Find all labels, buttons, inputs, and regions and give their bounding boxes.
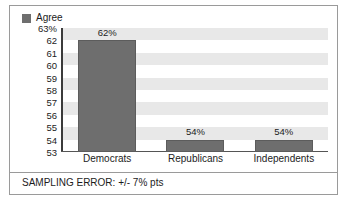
footnote-divider xyxy=(10,172,337,173)
sampling-error-note: SAMPLING ERROR: +/- 7% pts xyxy=(22,178,163,188)
y-axis-tick-label: 60 xyxy=(46,61,57,71)
bar-group: 54% xyxy=(151,28,239,152)
category-label: Democrats xyxy=(83,154,131,164)
bar-value-label: 54% xyxy=(186,127,205,137)
bar-group: 62% xyxy=(63,28,151,152)
y-axis-tick-label: 59 xyxy=(46,74,57,84)
y-axis-tick-label: 56 xyxy=(46,111,57,121)
bar xyxy=(166,140,224,152)
bar-value-label: 62% xyxy=(98,28,117,38)
y-axis-tick-label: 57 xyxy=(46,98,57,108)
bar xyxy=(255,140,313,152)
legend-item-label: Agree xyxy=(36,13,63,23)
legend-swatch-icon xyxy=(22,14,31,23)
y-axis-tick-labels: 63%62616059585756555453 xyxy=(31,28,59,152)
y-axis-tick-label: 58 xyxy=(46,86,57,96)
y-axis-tick-label: 53 xyxy=(46,148,57,158)
category-label: Independents xyxy=(254,154,315,164)
plot-area: 63%62616059585756555453 62%54%54% Democr… xyxy=(31,28,328,158)
bar xyxy=(78,40,136,152)
y-axis-tick-label: 61 xyxy=(46,49,57,59)
y-axis-tick-label: 62 xyxy=(46,36,57,46)
y-axis-tick-label: 55 xyxy=(46,123,57,133)
bar-group: 54% xyxy=(240,28,328,152)
x-axis-category-labels: DemocratsRepublicansIndependents xyxy=(63,154,328,170)
category-label: Republicans xyxy=(168,154,223,164)
y-axis-tick-label: 63% xyxy=(38,24,57,34)
y-axis-tick-label: 54 xyxy=(46,136,57,146)
bar-series-agree: 62%54%54% xyxy=(63,28,328,152)
chart-container: Agree 63%62616059585756555453 62%54%54% … xyxy=(9,5,338,195)
bar-value-label: 54% xyxy=(274,127,293,137)
